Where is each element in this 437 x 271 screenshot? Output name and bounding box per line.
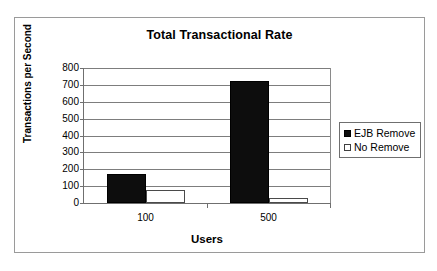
gridline (84, 102, 330, 103)
bar-ejb-remove-100 (107, 174, 146, 203)
chart-frame: Total Transactional Rate Transactions pe… (14, 17, 425, 253)
legend-swatch-icon (344, 144, 351, 151)
bar-no-remove-500 (269, 198, 308, 203)
legend-item[interactable]: EJB Remove (344, 126, 415, 140)
bar-no-remove-100 (146, 190, 185, 204)
legend-item[interactable]: No Remove (344, 140, 415, 154)
plot-area: 8007006005004003002001000100500 (83, 68, 331, 204)
y-tick-label: 800 (62, 63, 79, 73)
y-tick-label: 400 (62, 131, 79, 141)
x-axis-title: Users (83, 233, 331, 245)
y-tick-mark (80, 119, 84, 120)
y-tick-mark (80, 152, 84, 153)
y-tick-mark (80, 186, 84, 187)
y-axis-title: Transactions per Second (22, 14, 33, 154)
bar-ejb-remove-500 (230, 81, 269, 203)
y-tick-mark (80, 169, 84, 170)
chart-title: Total Transactional Rate (15, 28, 424, 42)
legend-item-label: EJB Remove (354, 128, 415, 139)
y-tick-mark (80, 68, 84, 69)
y-tick-label: 300 (62, 147, 79, 157)
x-category-label: 100 (137, 212, 154, 223)
y-tick-label: 0 (73, 198, 79, 208)
x-category-label: 500 (260, 212, 277, 223)
gridline (84, 119, 330, 120)
y-tick-label: 600 (62, 97, 79, 107)
y-tick-label: 100 (62, 181, 79, 191)
chart-legend: EJB Remove No Remove (339, 122, 421, 158)
gridline (84, 68, 330, 69)
y-tick-label: 500 (62, 114, 79, 124)
gridline (84, 136, 330, 137)
y-tick-label: 200 (62, 164, 79, 174)
x-tick-mark (330, 203, 331, 208)
legend-item-label: No Remove (354, 142, 409, 153)
x-tick-mark (207, 203, 208, 208)
gridline (84, 152, 330, 153)
y-tick-mark (80, 136, 84, 137)
legend-swatch-icon (344, 130, 351, 137)
gridline (84, 85, 330, 86)
y-tick-label: 700 (62, 80, 79, 90)
y-tick-mark (80, 85, 84, 86)
y-tick-mark (80, 102, 84, 103)
y-tick-mark (80, 203, 84, 204)
gridline (84, 169, 330, 170)
